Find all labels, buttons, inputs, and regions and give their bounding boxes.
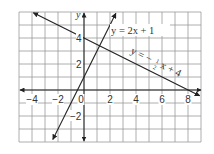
x-tick-label: 6 bbox=[159, 94, 165, 105]
x-tick-label: −2 bbox=[52, 94, 64, 105]
x-tick-label: 2 bbox=[107, 94, 113, 105]
svg-text:1: 1 bbox=[155, 58, 160, 65]
y-tick-4: 4 bbox=[76, 33, 82, 44]
svg-text:y = 2x + 1: y = 2x + 1 bbox=[111, 25, 154, 36]
line-chart: −4−202468 4 2 −2 y y = 2x + 1 y = − 1 2 … bbox=[0, 0, 214, 154]
svg-text:y = −: y = − bbox=[129, 45, 154, 65]
x-tick-label: 8 bbox=[185, 94, 191, 105]
svg-text:2: 2 bbox=[152, 64, 157, 71]
y-tick-2: 2 bbox=[76, 59, 82, 70]
svg-text:x + 4: x + 4 bbox=[159, 59, 184, 79]
x-tick-label: 0 bbox=[78, 94, 84, 105]
eq1-label: y = 2x + 1 bbox=[110, 24, 170, 36]
x-tick-label: 4 bbox=[133, 94, 139, 105]
x-tick-label: −4 bbox=[26, 94, 38, 105]
y-axis-label: y bbox=[75, 9, 81, 20]
y-tick-neg2: −2 bbox=[70, 111, 82, 122]
